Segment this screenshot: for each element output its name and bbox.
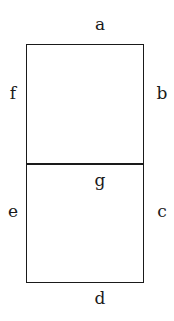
segment-label-e: e bbox=[8, 203, 18, 220]
segment-label-b: b bbox=[157, 85, 168, 102]
segment-label-c: c bbox=[157, 203, 167, 220]
lower-rectangle bbox=[26, 163, 144, 283]
segment-label-d: d bbox=[95, 290, 106, 307]
segment-label-g: g bbox=[95, 172, 106, 189]
segment-label-f: f bbox=[10, 85, 16, 102]
upper-rectangle bbox=[26, 44, 144, 165]
segment-label-a: a bbox=[95, 16, 105, 33]
